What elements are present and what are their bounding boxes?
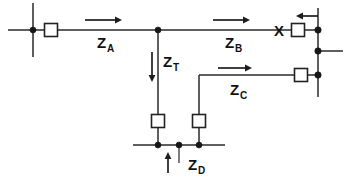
flow-arrow-za [85,17,122,24]
label-subscript-zb: B [235,43,242,54]
label-zc: ZC [230,81,247,101]
label-base-zt: Z [163,53,172,70]
flow-arrow-zd [165,152,172,173]
impedance-box-source-left [45,24,58,37]
schematic-canvas: X ZA ZB ZT ZC ZD [0,0,354,188]
node-dot-bottom-b [176,142,182,148]
label-group: ZA ZB ZT ZC ZD [97,34,247,176]
label-zb: ZB [225,34,242,54]
label-subscript-zt: T [173,62,179,73]
label-base-zb: Z [225,34,234,51]
label-zt: ZT [163,53,179,73]
flow-arrow-zb [213,17,250,24]
label-base-zd: Z [188,156,197,173]
node-dot-right-top [315,27,321,33]
node-dot-left-bus [30,27,36,33]
impedance-diagram: X ZA ZB ZT ZC ZD [0,0,354,188]
label-za: ZA [97,34,114,54]
label-base-za: Z [97,34,106,51]
label-base-zc: Z [230,81,239,98]
fault-marker: X [274,22,284,39]
fault-marker-label: X [274,22,284,39]
impedance-box-zt-bottom [152,115,165,128]
impedance-box-zb-right [292,24,305,37]
label-subscript-zc: C [240,90,247,101]
node-dot-bottom-a [155,142,161,148]
node-dot-right-mid [315,48,321,54]
label-subscript-za: A [107,43,114,54]
node-dot-group [30,27,321,148]
impedance-box-zc-right [295,69,308,82]
flow-arrow-in-right [296,13,318,20]
node-dot-center-tap [155,27,161,33]
node-dot-bottom-c [196,142,202,148]
node-dot-right-low [315,72,321,78]
flow-arrow-zt [149,52,156,82]
label-subscript-zd: D [198,165,205,176]
impedance-box-zc-bottom [193,115,206,128]
label-zd: ZD [188,156,205,176]
flow-arrow-zc [218,65,252,72]
